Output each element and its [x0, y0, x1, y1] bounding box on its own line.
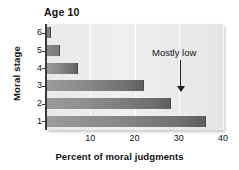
down-arrow-icon-shaft [180, 60, 181, 87]
bar-stage-2 [46, 98, 171, 109]
chart-title: Age 10 [44, 6, 80, 18]
bar-stage-6 [46, 27, 51, 38]
gridline-10 [90, 24, 91, 130]
y-axis-tick-labels: 654321 [20, 24, 42, 130]
y-tick-mark-4 [42, 68, 46, 69]
y-tick-label-2: 2 [30, 98, 42, 108]
down-arrow-icon [177, 86, 185, 92]
y-tick-mark-3 [42, 86, 46, 87]
y-axis-line [45, 24, 47, 130]
x-axis-tick-labels: 10203040 [0, 131, 239, 147]
y-tick-label-1: 1 [30, 116, 42, 126]
bar-stage-3 [46, 80, 144, 91]
x-axis-title: Percent of moral judgments [0, 151, 239, 162]
x-tick-label-40: 40 [210, 133, 236, 143]
bar-stage-1 [46, 116, 206, 127]
chart-screenshot: Age 10 Moral stage 654321 10203040 Perce… [0, 0, 239, 170]
x-tick-label-30: 30 [166, 133, 192, 143]
bar-stage-5 [46, 45, 60, 56]
bar-stage-4 [46, 63, 78, 74]
plot-area [46, 24, 223, 130]
y-tick-label-4: 4 [30, 63, 42, 73]
x-tick-label-10: 10 [77, 133, 103, 143]
y-tick-label-5: 5 [30, 45, 42, 55]
y-tick-label-3: 3 [30, 80, 42, 90]
y-tick-mark-5 [42, 51, 46, 52]
x-tick-label-20: 20 [122, 133, 148, 143]
y-tick-label-6: 6 [30, 27, 42, 37]
gridline-20 [135, 24, 136, 130]
y-tick-mark-2 [42, 104, 46, 105]
gridline-40 [223, 24, 224, 130]
y-tick-mark-6 [42, 33, 46, 34]
y-tick-mark-1 [42, 121, 46, 122]
annotation-label-mostly-low: Mostly low [152, 47, 196, 58]
